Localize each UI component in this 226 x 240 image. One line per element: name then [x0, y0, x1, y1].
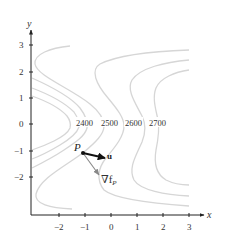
y-tick-label: 1 [19, 93, 24, 103]
x-tick-label: 0 [109, 222, 114, 232]
x-tick-label: 2 [161, 222, 166, 232]
y-tick-label: 0 [19, 119, 24, 129]
y-tick-label: −1 [14, 146, 24, 156]
contour-label-2600: 2600 [125, 118, 142, 128]
gradient-label: ∇fP [101, 173, 117, 187]
y-tick-label: 3 [19, 40, 24, 50]
point-p-label: P [73, 141, 81, 153]
contour-label-2400: 2400 [76, 118, 93, 128]
y-tick-label: 2 [19, 67, 24, 77]
contour-label-2500: 2500 [101, 118, 118, 128]
x-tick-label: 1 [135, 222, 140, 232]
contour-labels: 2400 2500 2600 2700 [75, 117, 167, 128]
x-tick-label: −2 [54, 222, 64, 232]
y-axis-label: y [26, 18, 32, 29]
contour-line-2700-a [130, 60, 189, 196]
contour-label-2700: 2700 [149, 118, 166, 128]
x-axis-label: x [206, 209, 212, 220]
u-vector-label: u [107, 151, 112, 161]
contour-diagram: x y −2 −1 0 1 2 3 3 2 1 0 −1 −2 2400 2 [0, 0, 226, 240]
y-tick-label: −2 [14, 172, 24, 182]
x-tick-label: −1 [80, 222, 90, 232]
vectors: P u ∇fP [73, 141, 117, 187]
x-tick-label: 3 [187, 222, 192, 232]
point-p [81, 151, 85, 155]
